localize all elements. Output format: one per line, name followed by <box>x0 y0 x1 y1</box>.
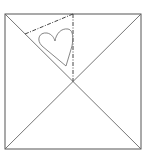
folded-square-diagram <box>0 0 149 156</box>
dash-dot-slant-line <box>25 14 73 34</box>
heart-outline-icon <box>39 29 73 66</box>
